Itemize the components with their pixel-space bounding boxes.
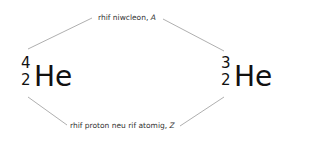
- nuclide-helium-4: 4 2 He: [21, 56, 81, 96]
- nuclide-helium-3: 3 2 He: [221, 56, 281, 96]
- line-bottom-left: [28, 97, 67, 125]
- atomic-number-symbol: Z: [170, 121, 175, 130]
- atomic-number: 2: [221, 73, 231, 88]
- line-bottom-right: [180, 97, 224, 126]
- mass-number-label: rhif niwcleon, A: [98, 13, 156, 22]
- atomic-number-label: rhif proton neu rif atomig, Z: [70, 121, 175, 130]
- atomic-number-text: rhif proton neu rif atomig,: [70, 121, 170, 130]
- element-symbol: He: [34, 63, 72, 91]
- mass-number: 4: [21, 56, 31, 71]
- element-symbol: He: [234, 63, 272, 91]
- atomic-number: 2: [21, 73, 31, 88]
- line-top-right: [163, 19, 224, 51]
- line-top-left: [28, 18, 92, 49]
- mass-number: 3: [221, 56, 231, 71]
- mass-number-text: rhif niwcleon,: [98, 13, 151, 22]
- mass-number-symbol: A: [151, 13, 156, 22]
